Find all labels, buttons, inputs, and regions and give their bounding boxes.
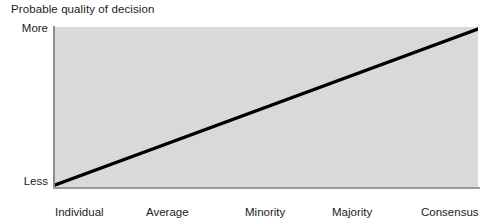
chart-figure: Probable quality of decision More Less I… [0,0,484,224]
x-tick-line-1: Majority [332,206,372,218]
x-axis-tick-majority-control: Majority control [332,192,372,224]
y-axis-label-less: Less [0,175,48,188]
x-axis-tick-consensus: Consensus [421,192,479,219]
x-tick-line-1: Individual [55,206,104,218]
x-tick-line-1: Consensus [421,206,479,218]
x-tick-line-1: Minority [245,206,285,218]
y-axis-label-more: More [0,22,48,35]
x-axis-tick-average-individual: Average individual [146,192,194,224]
trend-line-svg [55,27,478,187]
x-axis-line [53,187,480,189]
y-axis-line [53,26,55,188]
x-axis-tick-individual: Individual [55,192,104,219]
x-axis-tick-minority-control: Minority control [245,192,285,224]
plot-area [55,27,478,187]
page-title: Probable quality of decision [11,2,154,16]
x-tick-line-1: Average [146,206,189,218]
trend-line [55,29,478,185]
